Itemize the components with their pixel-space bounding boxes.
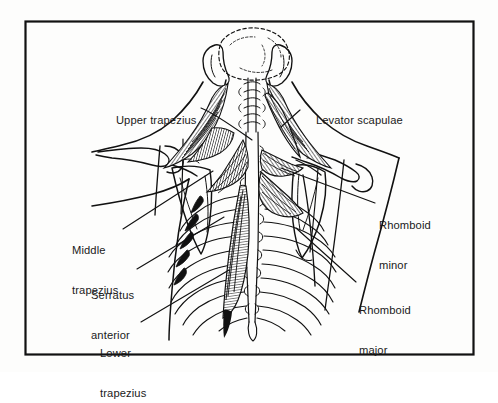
right-rib-cage — [257, 196, 336, 335]
label-levator-scapulae-text: Levator scapulae — [316, 114, 403, 126]
right-mastoid-process — [266, 45, 292, 86]
left-clavicle-acromion — [96, 146, 183, 173]
label-rhomboid-major-line1: Rhomboid — [359, 304, 411, 317]
label-lower-trapezius-line2: trapezius — [100, 387, 146, 400]
left-mastoid-process — [203, 45, 229, 86]
label-upper-trapezius: Upper trapezius — [103, 101, 197, 141]
lower-trapezius-muscle-fibers — [223, 185, 249, 338]
label-levator-scapulae: Levator scapulae — [303, 101, 403, 141]
label-rhomboid-minor-line2: minor — [379, 259, 431, 272]
rhomboid-major-muscle — [259, 172, 303, 217]
label-rhomboid-minor-line1: Rhomboid — [379, 219, 431, 232]
label-rhomboid-major-line2: major — [359, 344, 411, 357]
label-lower-trapezius: Lower trapezius — [100, 320, 146, 403]
label-upper-trapezius-text: Upper trapezius — [116, 114, 197, 126]
leader-rhomboid-minor — [281, 168, 375, 203]
label-serratus-anterior-line1: Serratus — [91, 289, 134, 302]
occiput-and-skull-base — [219, 28, 290, 80]
cervical-vertebrae — [239, 78, 266, 132]
label-rhomboid-major: Rhomboid major — [359, 277, 411, 384]
label-lower-trapezius-line1: Lower — [100, 347, 146, 360]
label-middle-trapezius-line1: Middle — [72, 244, 118, 257]
